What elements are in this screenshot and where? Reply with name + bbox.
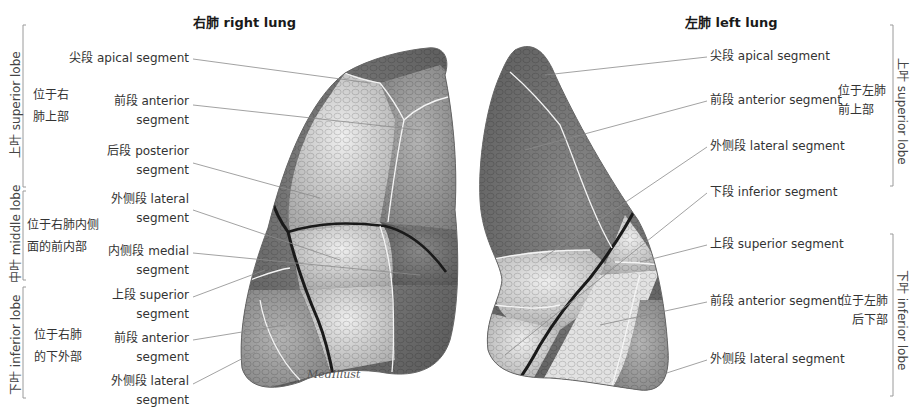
right-apical-segment-label: 尖段 apical segment (69, 49, 189, 68)
left-superior-segment-label: 上段 superior segment (710, 235, 844, 254)
right-lateral-basal-segment-label: 外侧段 lateral segment (111, 372, 189, 407)
left-superior-lobe-label: 上叶 superior lobe (895, 58, 912, 165)
right-medial-segment-label: 内侧段 medial segment (108, 242, 189, 280)
right-anterior-basal-segment-label: 前段 anterior segment (114, 329, 189, 367)
left-apical-segment-label: 尖段 apical segment (710, 47, 830, 66)
right-brackets (890, 25, 893, 396)
right-superior-lobe-label: 上叶 superior lobe (6, 51, 23, 158)
right-inferior-lobe-label: 下叶 inferior lobe (6, 295, 23, 395)
illustrator-signature: MedIllust (307, 368, 360, 381)
right-anterior-segment-label: 前段 anterior segment (114, 92, 189, 130)
right-superior-location: 位于右 肺上部 (33, 84, 69, 128)
left-brackets (23, 25, 26, 398)
left-anterior-basal-segment-label: 前段 anterior segment (710, 292, 842, 311)
left-inferior-location: 位于左肺 后下部 (840, 292, 888, 330)
right-middle-location: 位于右肺内侧 面的前内部 (27, 214, 99, 258)
left-lateral-segment-label: 外侧段 lateral segment (710, 137, 845, 156)
right-posterior-segment-label: 后段 posterior segment (107, 142, 189, 180)
left-lung-title: 左肺 left lung (685, 12, 777, 31)
right-lung (230, 40, 470, 400)
left-lateral-basal-segment-label: 外侧段 lateral segment (710, 350, 845, 369)
left-superior-location: 位于左肺 前上部 (838, 82, 886, 120)
right-lateral-segment-middle-label: 外侧段 lateral segment (111, 190, 189, 228)
left-anterior-segment-label: 前段 anterior segment (710, 91, 842, 110)
right-lung-title: 右肺 right lung (193, 12, 296, 31)
left-lung (470, 40, 680, 400)
left-inferior-lobe-label: 下叶 inferior lobe (895, 270, 912, 370)
right-superior-segment-label: 上段 superior segment (112, 286, 189, 324)
left-inferior-segment-label: 下段 inferior segment (710, 183, 837, 202)
right-inferior-location: 位于右肺 的下外部 (34, 324, 82, 368)
right-middle-lobe-label: 中叶 middle lobe (6, 185, 23, 283)
